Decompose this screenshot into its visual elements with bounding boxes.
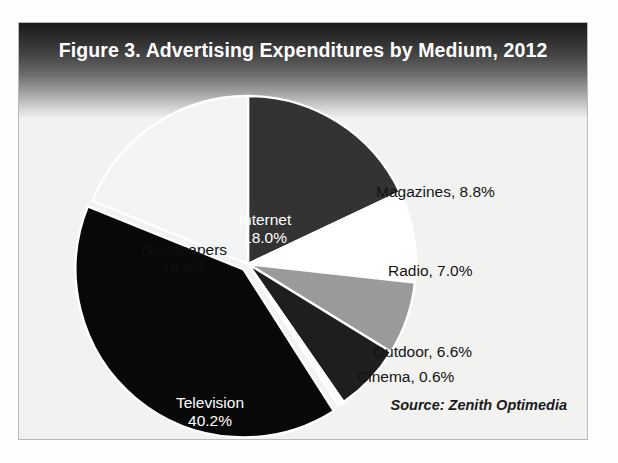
figure-title: Figure 3. Advertising Expenditures by Me…: [19, 39, 587, 62]
pie-callout-label-magazines: Magazines, 8.8%: [376, 183, 495, 201]
pie-callout-label-outdoor: Outdoor, 6.6%: [373, 343, 472, 361]
pie-slice-label-television-value: 40.2%: [135, 412, 285, 430]
pie-callout-label-radio: Radio, 7.0%: [388, 262, 472, 280]
pie-chart: Internet 18.0% Newspapers 18.9% Televisi…: [73, 89, 423, 439]
figure-frame: Figure 3. Advertising Expenditures by Me…: [18, 22, 588, 440]
pie-callout-label-cinema: Cinema, 0.6%: [357, 368, 454, 386]
pie-slice-label-newspapers: Newspapers 18.9%: [109, 241, 259, 277]
pie-slice-label-newspapers-name: Newspapers: [141, 241, 227, 258]
pie-slice-label-television: Television 40.2%: [135, 394, 285, 430]
pie-slice-label-internet-name: Internet: [239, 211, 292, 228]
source-credit: Source: Zenith Optimedia: [391, 397, 567, 413]
pie-slice-label-newspapers-value: 18.9%: [109, 259, 259, 277]
pie-slice-label-television-name: Television: [176, 394, 244, 411]
